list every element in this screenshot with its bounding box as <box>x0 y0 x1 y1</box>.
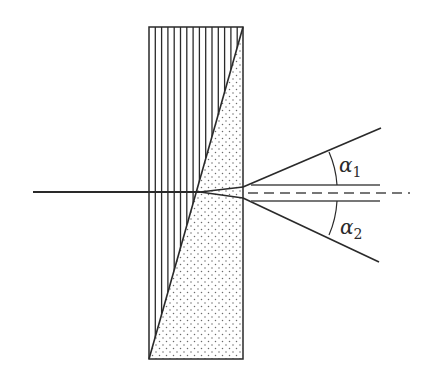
angle-arc-alpha1 <box>329 152 337 185</box>
label-alpha1: α1 <box>339 153 361 180</box>
wollaston-prism-diagram: α1 α2 <box>0 0 433 386</box>
angle-arc-alpha2 <box>329 201 337 235</box>
label-alpha2: α2 <box>340 215 362 242</box>
